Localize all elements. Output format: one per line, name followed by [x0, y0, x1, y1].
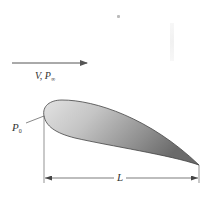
p0-leader-line [26, 116, 44, 123]
faint-mark [117, 15, 120, 18]
chord-length-label: L [114, 171, 126, 183]
flow-label: V, P∞ [35, 70, 55, 82]
p0-label: P0 [12, 121, 22, 134]
p0-label-sub: 0 [19, 128, 22, 134]
faint-watermark [170, 23, 174, 61]
p0-label-main: P [12, 121, 19, 133]
flow-label-sub: ∞ [51, 76, 55, 82]
airfoil-diagram [0, 0, 208, 199]
flow-label-main: V, P [35, 70, 51, 81]
airfoil-shape [44, 100, 199, 165]
